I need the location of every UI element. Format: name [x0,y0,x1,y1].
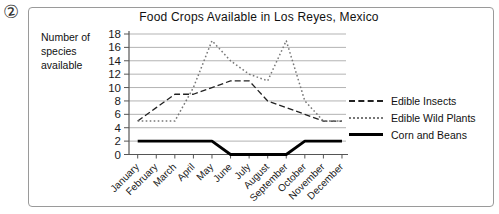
y-tick-label: 8 [115,95,121,107]
x-tick-label: April [175,161,197,183]
axes [129,31,348,155]
y-tick-label: 2 [115,135,121,147]
legend-item-corn-and-beans: Corn and Beans [349,126,493,143]
y-tick-label: 18 [108,28,121,40]
y-tick-label: 0 [115,149,121,161]
series-line-corn-and-beans [138,141,342,154]
legend-label: Edible Wild Plants [391,112,476,124]
y-tick-label: 16 [108,41,121,53]
legend-label: Edible Insects [391,95,456,107]
legend-item-edible-wild-plants: Edible Wild Plants [349,109,493,126]
x-tick-label: June [211,161,234,184]
dashed-line-sample-icon [349,100,383,102]
y-tick-label: 10 [108,82,121,94]
y-tick-label: 6 [115,108,121,120]
legend-item-edible-insects: Edible Insects [349,92,493,109]
legend-label: Corn and Beans [391,129,467,141]
y-tick-label: 14 [108,55,121,67]
y-tick-label: 12 [108,68,121,80]
screenshot-root: ② Food Crops Available in Los Reyes, Mex… [0,0,499,214]
y-axis-ticks-and-labels: 024681012141618 [108,28,129,161]
question-number-marker: ② [2,0,21,24]
gridlines [129,34,346,141]
y-tick-label: 4 [115,122,122,134]
figure-border-box: Food Crops Available in Los Reyes, Mexic… [28,7,494,207]
chart-legend: Edible Insects Edible Wild Plants Corn a… [349,92,493,143]
solid-line-sample-icon [349,133,383,136]
x-axis-ticks-and-labels: JanuaryFebruaryMarchAprilMayJuneJulyAugu… [108,155,346,204]
dotted-line-sample-icon [349,117,383,119]
